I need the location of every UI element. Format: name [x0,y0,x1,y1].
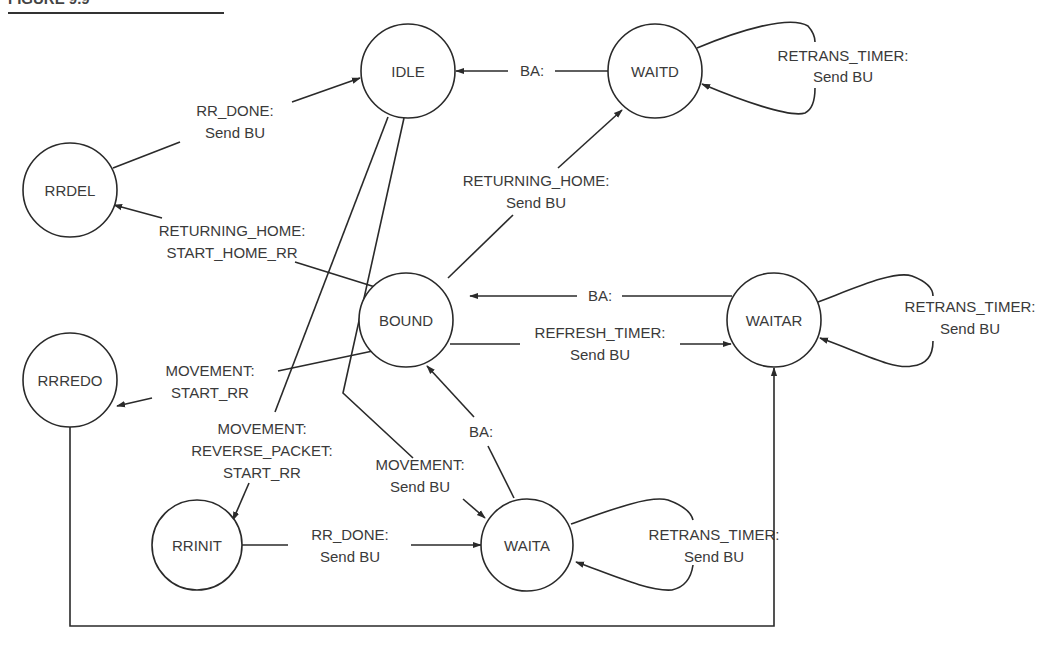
edge-label: REVERSE_PACKET: [191,442,332,459]
state-label: WAITA [504,537,550,554]
edge-label: MOVEMENT: [375,456,464,473]
edge-waitd-self-loop: RETRANS_TIMER: Send BU [697,22,908,114]
edge-label: Send BU [320,548,380,565]
state-label: BOUND [379,312,433,329]
state-rrredo[interactable]: RRREDO [23,333,117,427]
state-rrdel[interactable]: RRDEL [23,143,117,237]
edge-label: START_RR [223,464,301,481]
edge-label: Send BU [813,68,873,85]
edge-label: START_HOME_RR [166,244,297,261]
state-label: RRDEL [45,182,96,199]
state-label: RRREDO [37,372,102,389]
edge-label: START_RR [171,384,249,401]
edge-label: BA: [588,287,612,304]
edge-label: REFRESH_TIMER: [535,324,666,341]
edge-label: RR_DONE: [311,526,389,543]
edge-label: Send BU [570,346,630,363]
edge-label: Send BU [940,320,1000,337]
edge-label: RETRANS_TIMER: [649,526,780,543]
state-label: RRINIT [172,537,222,554]
edge-waita-self-loop: RETRANS_TIMER: Send BU [571,499,779,590]
edge-bound-to-waitd: RETURNING_HOME: Send BU [448,110,622,278]
state-label: IDLE [391,63,424,80]
figure-title-text: FIGURE 9.9 [8,0,90,7]
edge-bound-to-rrdel: RETURNING_HOME: START_HOME_RR [114,205,388,291]
state-rrinit[interactable]: RRINIT [152,500,242,590]
edge-rrdel-to-idle: RR_DONE: Send BU [113,78,360,168]
edge-label: RETURNING_HOME: [159,222,306,239]
state-label: WAITAR [746,312,803,329]
edge-waitar-self-loop: RETRANS_TIMER: Send BU [818,275,1035,367]
state-bound[interactable]: BOUND [359,273,453,367]
state-label: WAITD [631,63,679,80]
edge-bound-to-waitar: REFRESH_TIMER: Send BU [450,324,731,363]
edge-rrinit-to-waita: RR_DONE: Send BU [240,526,481,565]
state-idle[interactable]: IDLE [361,24,455,118]
edge-label: RR_DONE: [196,102,274,119]
edge-label: RETRANS_TIMER: [905,298,1036,315]
edge-rrredo-to-waitar [70,368,774,626]
edge-label: RETURNING_HOME: [463,172,610,189]
edge-label: Send BU [506,194,566,211]
edge-label: MOVEMENT: [165,362,254,379]
figure-title: FIGURE 9.9 [8,0,224,13]
edge-label: Send BU [205,124,265,141]
state-waitd[interactable]: WAITD [608,24,702,118]
state-waitar[interactable]: WAITAR [727,273,821,367]
edge-waitar-to-bound: BA: [470,287,732,304]
state-waita[interactable]: WAITA [481,499,573,591]
edge-waitd-to-idle: BA: [456,62,608,79]
edge-label: RETRANS_TIMER: [778,47,909,64]
edge-label: MOVEMENT: [217,420,306,437]
edge-label: BA: [469,423,493,440]
edge-label: BA: [520,62,544,79]
edge-label: Send BU [684,548,744,565]
state-diagram: FIGURE 9.9 BA: RETRANS_TIMER: Send BU RR… [0,0,1051,652]
edge-label: Send BU [390,478,450,495]
